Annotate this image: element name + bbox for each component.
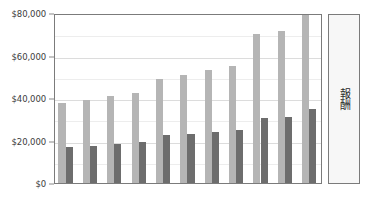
legend-label-compensation: 報酬 (338, 88, 350, 110)
bar (212, 132, 219, 183)
bar (278, 31, 285, 183)
bar (302, 15, 309, 183)
legend-panel: 報酬 (328, 14, 360, 184)
bar (90, 146, 97, 183)
plot-area (54, 14, 322, 184)
bar (66, 147, 73, 183)
bar (156, 79, 163, 183)
bar (114, 144, 121, 183)
bar (163, 135, 170, 183)
bar (132, 93, 139, 183)
y-axis-tick-label: $60,000 (12, 52, 46, 62)
bar (107, 96, 114, 183)
bars-layer (55, 15, 321, 183)
bar-chart: $0$20,000$40,000$60,000$80,000 報酬 (0, 0, 367, 202)
plot-wrapper (54, 14, 322, 184)
bar (187, 134, 194, 183)
y-axis: $0$20,000$40,000$60,000$80,000 (0, 14, 54, 184)
bar (205, 70, 212, 183)
y-axis-tick-label: $0 (35, 179, 46, 189)
y-axis-tick-label: $80,000 (12, 9, 46, 19)
bar (83, 100, 90, 183)
y-axis-tick-label: $20,000 (12, 137, 46, 147)
bar (236, 130, 243, 183)
bar (253, 34, 260, 183)
bar (58, 103, 65, 183)
bar (309, 109, 316, 183)
bar (285, 117, 292, 183)
y-axis-tick-label: $40,000 (12, 94, 46, 104)
bar (139, 142, 146, 183)
bar (229, 66, 236, 183)
bar (261, 118, 268, 183)
bar (180, 75, 187, 183)
